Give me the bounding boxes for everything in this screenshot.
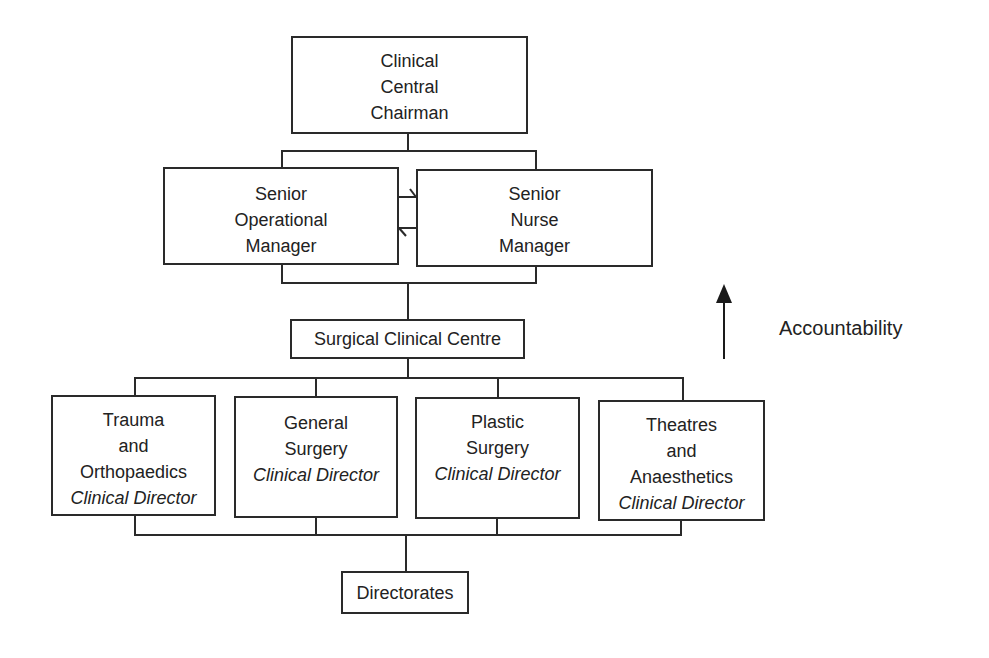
trauma-orthopaedics-box: Trauma and Orthopaedics Clinical Directo… bbox=[51, 395, 216, 516]
box-label: Directorates bbox=[356, 580, 453, 606]
directorates-box: Directorates bbox=[341, 571, 469, 614]
box-label: Manager bbox=[499, 233, 570, 259]
clinical-central-chairman-box: Clinical Central Chairman bbox=[291, 36, 528, 134]
accountability-label: Accountability bbox=[779, 317, 902, 340]
accountability-arrow-icon bbox=[716, 284, 732, 359]
box-label: Nurse bbox=[510, 207, 558, 233]
box-label: and bbox=[118, 433, 148, 459]
box-label: Anaesthetics bbox=[630, 464, 733, 490]
box-label: Orthopaedics bbox=[80, 459, 187, 485]
senior-nurse-manager-box: Senior Nurse Manager bbox=[416, 169, 653, 267]
box-label: Clinical bbox=[380, 48, 438, 74]
general-surgery-box: General Surgery Clinical Director bbox=[234, 396, 398, 518]
role-label: Clinical Director bbox=[618, 490, 744, 516]
box-label: Theatres bbox=[646, 412, 717, 438]
role-label: Clinical Director bbox=[434, 461, 560, 487]
box-label: Senior bbox=[255, 181, 307, 207]
box-label: Manager bbox=[245, 233, 316, 259]
box-label: Surgical Clinical Centre bbox=[314, 326, 501, 352]
box-label: Senior bbox=[508, 181, 560, 207]
box-label: Trauma bbox=[103, 407, 164, 433]
box-label: Chairman bbox=[370, 100, 448, 126]
theatres-anaesthetics-box: Theatres and Anaesthetics Clinical Direc… bbox=[598, 400, 765, 521]
box-label: Central bbox=[380, 74, 438, 100]
box-label: Plastic bbox=[471, 409, 524, 435]
plastic-surgery-box: Plastic Surgery Clinical Director bbox=[415, 397, 580, 519]
senior-operational-manager-box: Senior Operational Manager bbox=[163, 167, 399, 265]
box-label: General bbox=[284, 410, 348, 436]
role-label: Clinical Director bbox=[70, 485, 196, 511]
role-label: Clinical Director bbox=[253, 462, 379, 488]
surgical-clinical-centre-box: Surgical Clinical Centre bbox=[290, 319, 525, 359]
box-label: Operational bbox=[234, 207, 327, 233]
box-label: and bbox=[666, 438, 696, 464]
arrow-left-icon bbox=[399, 228, 406, 236]
box-label: Surgery bbox=[466, 435, 529, 461]
box-label: Surgery bbox=[284, 436, 347, 462]
